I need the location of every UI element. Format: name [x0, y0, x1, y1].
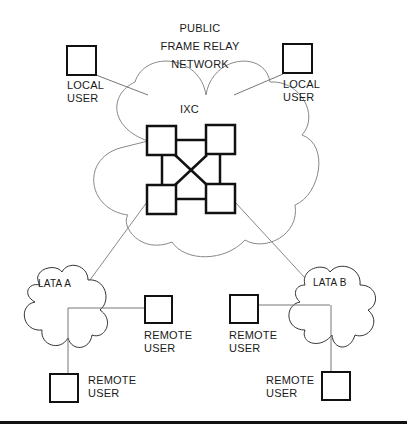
network-title: PUBLIC FRAME RELAY NETWORK — [120, 22, 280, 71]
remote-user-label-b1: REMOTEUSER — [229, 329, 277, 355]
local-user-box-right — [283, 44, 312, 73]
local-user-box-left — [67, 46, 96, 75]
lata-b-label: LATA B — [313, 276, 347, 289]
remote-user-box-b1 — [230, 295, 258, 323]
remote-user-label-a1: REMOTEUSER — [144, 329, 192, 355]
local-user-label-left: LOCALUSER — [67, 79, 104, 105]
remote-user-box-a2 — [50, 374, 78, 402]
bottom-rule — [0, 421, 407, 424]
local-user-label-right: LOCALUSER — [283, 78, 320, 104]
remote-user-box-b2 — [322, 372, 350, 400]
lata-a-label: LATA A — [38, 277, 71, 290]
remote-user-label-a2: REMOTEUSER — [88, 374, 136, 400]
ixc-label: IXC — [180, 103, 199, 116]
remote-user-label-b2: REMOTEUSER — [266, 374, 314, 400]
remote-user-box-a1 — [145, 296, 172, 323]
